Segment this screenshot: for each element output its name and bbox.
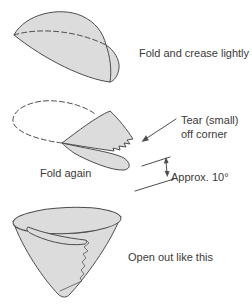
folded-semicircle-shape: [14, 12, 119, 82]
tear-arrow: [142, 119, 177, 142]
angle-label: Approx. 10°: [171, 171, 229, 184]
angle-arrow-bottom-head: [165, 171, 170, 177]
angle-lower-line: [135, 179, 174, 191]
step2-folded-fan: [13, 101, 176, 191]
step1-folded-semicircle: [14, 12, 119, 82]
step3-label: Open out like this: [128, 251, 213, 264]
tear-callout-line2: off corner: [181, 128, 227, 141]
angle-indicator: [135, 157, 174, 191]
folded-fan-shape: [62, 111, 133, 151]
tear-callout-line1: Tear (small): [181, 114, 238, 127]
step1-label: Fold and crease lightly: [139, 47, 249, 60]
step3-open-cone: [12, 205, 121, 297]
folding-instructions-diagram: Fold and crease lightly Tear (small) off…: [0, 0, 252, 306]
diagram-artwork: [0, 0, 252, 306]
step2-label: Fold again: [40, 167, 91, 180]
